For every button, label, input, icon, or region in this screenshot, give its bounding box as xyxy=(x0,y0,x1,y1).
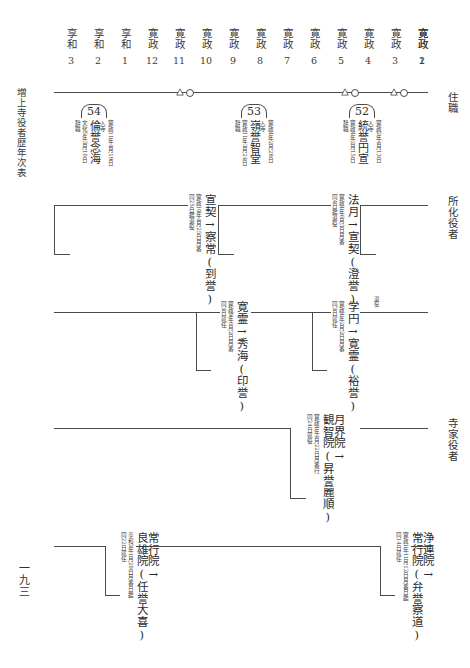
trainee-row2-rule-right xyxy=(360,312,428,313)
trainee-row2-connector-mid-foot xyxy=(312,370,327,371)
year-number-label: 11 xyxy=(168,55,190,66)
trainee-officer-name: 宣契→察常(到誉) xyxy=(203,194,215,305)
section-label-trainee-officers: 所化役者 xyxy=(443,196,461,240)
trainee-officer-note-date: 寛政4年6月3日月番 xyxy=(339,194,345,245)
trainee-officer-notes: 寛政10年4月25日月番 同25日鑑退役 xyxy=(188,194,202,251)
year-column-header: 寛政 6 xyxy=(303,28,325,66)
family-row2-connector-right xyxy=(380,546,381,595)
family-officer-entry: 月界院→ 観智院(昇誉麗順) 寛政4年4月22日月番行 同24日就役 xyxy=(306,414,344,523)
abbot-exit-label: 辞職 xyxy=(234,120,240,132)
year-era-label: 寛政 xyxy=(362,28,373,50)
family-row2-connector-right-foot xyxy=(380,595,395,596)
family-officer-note-action: 同22日就任 xyxy=(121,532,127,562)
abbot-entry: 52 寛政2年4月13日 入寺 統誉円宣 寛政4年2月15日 辞職 xyxy=(330,100,394,164)
trainee-row1-connector-right xyxy=(360,205,361,254)
year-era-label: 寛政 xyxy=(200,28,211,50)
abbot-exit-date: 文化5年3月10日 xyxy=(82,120,88,162)
trainee-officer-name: 法月→宣契(澄誉) xyxy=(346,194,358,305)
year-era-label: 寛政 xyxy=(146,28,157,50)
year-number-label: 3 xyxy=(384,55,406,66)
trainee-row1-connector-mid xyxy=(218,205,219,254)
abbot-entry-label: 入寺 xyxy=(260,120,266,132)
family-officer-entry: 常行院→ 良雄院(任誉大喜) 享和3年1月20日月番日鑑 同22日就任 xyxy=(120,532,158,641)
abbot-name: 嶺誉智堂 xyxy=(248,120,259,164)
trainee-row1-connector-mid-foot xyxy=(218,254,234,255)
trainee-officer-entry: 寛霊→秀海(印誉) 寛政9年6月2日月番 同3日就任 xyxy=(220,301,247,412)
circle-marker xyxy=(400,89,408,97)
family-row1-rule-left xyxy=(54,428,290,429)
year-column-header: 寛政 12 xyxy=(141,28,163,66)
family-officer-note-date: 享和3年1月20日月番日鑑 xyxy=(128,532,134,598)
abbot-number: 54 xyxy=(81,104,107,118)
trainee-officer-note-date: 寛政9年6月2日月番 xyxy=(228,301,234,352)
family-row1-connector xyxy=(290,428,291,498)
family-row1-connector-foot xyxy=(290,498,306,499)
year-number-label: 7 xyxy=(276,55,298,66)
year-number-label: 3 xyxy=(60,55,82,66)
year-column-header: 寛政 8 xyxy=(249,28,271,66)
trainee-row1-rule-mid xyxy=(218,205,331,206)
year-column-header: 寛政 9 xyxy=(222,28,244,66)
document-left-title: 増上寺役者歴年次表 xyxy=(16,88,26,178)
trainee-officer-note-action: 同4日鑑退役 xyxy=(332,194,338,226)
trainee-row2-connector-left-foot xyxy=(196,370,211,371)
trainee-officer-note-date: 寛政10年4月25日月番 xyxy=(196,194,202,251)
abbot-entry-label: 入寺 xyxy=(100,120,106,132)
family-officer-notes: 享和3年1月20日月番日鑑 同22日就任 xyxy=(120,532,134,598)
year-number-label: 10 xyxy=(195,55,217,66)
trainee-row1-rule-left xyxy=(54,205,188,206)
year-number-label: 5 xyxy=(330,55,352,66)
trainee-row2-rule-mid xyxy=(251,312,331,313)
trainee-officer-name: 学円→寛霊(裕誉) xyxy=(346,301,358,412)
year-era-label: 寛政 xyxy=(227,28,238,50)
triangle-marker xyxy=(341,88,349,96)
abbot-name: 倫誉念海 xyxy=(88,120,99,164)
trainee-officer-name: 寛霊→秀海(印誉) xyxy=(235,301,247,412)
page-number: 一九三 xyxy=(16,562,30,598)
trainee-officer-entry: 法月→宣契(澄誉) 寛政4年6月3日月番 同4日鑑退役 xyxy=(331,194,358,305)
family-officer-notes: 寛政1年11月12日月番日鑑 同14日就任 xyxy=(395,532,409,601)
year-era-label: 享和 xyxy=(65,28,76,50)
year-number-label: 1 xyxy=(411,55,433,66)
year-column-header: 寛政 1 xyxy=(411,28,433,66)
trainee-officer-note-action: 同25日鑑退役 xyxy=(189,194,195,230)
abbots-timeline-rule xyxy=(54,92,428,93)
family-officer-note-date: 寛政4年4月22日月番行 xyxy=(314,414,320,474)
trainee-officer-tag: 退役 xyxy=(373,296,379,306)
family-officer-notes: 寛政4年4月22日月番行 同24日就役 xyxy=(306,414,320,474)
year-era-label: 寛政 xyxy=(416,28,427,50)
family-officer-predecessor: 常行院→ xyxy=(147,532,159,581)
year-era-label: 寛政 xyxy=(389,28,400,50)
family-officer-name: 常行院(弁誉察道) xyxy=(410,532,422,641)
succession-marker xyxy=(390,88,410,97)
trainee-officer-entry: 学円→寛霊(裕誉) 寛政4年2月2日月番 同3日就任 xyxy=(331,301,358,412)
trainee-officer-notes: 寛政4年2月2日月番 同3日就任 xyxy=(331,301,345,352)
trainee-officer-notes: 寛政4年6月3日月番 同4日鑑退役 xyxy=(331,194,345,245)
trainee-row1-connector-right-foot xyxy=(360,254,376,255)
year-number-label: 2 xyxy=(87,55,109,66)
succession-marker xyxy=(176,88,196,97)
trainee-officer-note-action: 同3日就任 xyxy=(221,301,227,328)
family-officer-name: 観智院(昇誉麗順) xyxy=(321,414,333,523)
year-column-header: 寛政 11 xyxy=(168,28,190,66)
abbot-exit-date: 寛政11年3月24日 xyxy=(242,120,248,166)
year-era-label: 寛政 xyxy=(308,28,319,50)
abbot-name: 統誉円宣 xyxy=(356,120,367,164)
abbot-entry-date: 寛政2年4月13日 xyxy=(375,120,381,162)
family-officer-note-action: 同14日就任 xyxy=(396,532,402,562)
family-officer-name: 良雄院(任誉大喜) xyxy=(135,532,147,641)
year-number-label: 8 xyxy=(249,55,271,66)
family-row2-rule-left xyxy=(54,546,105,547)
trainee-officer-notes: 寛政9年6月2日月番 同3日就任 xyxy=(220,301,234,352)
abbot-entry-body: 寛政11年4月19日 入寺 倫誉念海 文化5年3月10日 辞職 xyxy=(62,120,126,166)
section-label-temple-family-officers: 寺家役者 xyxy=(443,418,461,462)
year-column-header: 享和 3 xyxy=(60,28,82,66)
triangle-marker xyxy=(176,88,184,96)
abbot-entry-date: 寛政4年2月28日 xyxy=(267,120,273,162)
family-officer-predecessor: 月界院→ xyxy=(333,414,345,463)
year-column-header: 享和 2 xyxy=(87,28,109,66)
abbot-number: 53 xyxy=(241,104,267,118)
year-column-header: 寛政 10 xyxy=(195,28,217,66)
family-row2-rule-mid xyxy=(136,546,380,547)
document-page: 増上寺役者歴年次表 一九三 住職 所化役者 寺家役者 享和 3 享和 2 享和 … xyxy=(0,0,470,668)
